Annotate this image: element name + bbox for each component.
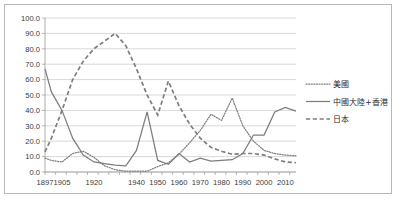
x-axis-label: 1990	[234, 178, 251, 187]
y-axis-label: 0.0	[29, 168, 40, 177]
y-axis-label: 80.0	[25, 45, 40, 54]
y-axis-label: 90.0	[25, 29, 40, 38]
y-axis-label: 10.0	[25, 152, 40, 161]
x-axis-label: 1950	[149, 178, 166, 187]
x-axis-label: 1920	[85, 178, 102, 187]
series-line-jp	[45, 33, 296, 162]
x-axis-label: 1960	[171, 178, 188, 187]
x-axis-label: 1897	[37, 178, 54, 187]
x-axis-label: 1980	[213, 178, 230, 187]
y-axis-label: 50.0	[25, 91, 40, 100]
chart-canvas: 0.010.020.030.040.050.060.070.080.090.01…	[0, 0, 402, 215]
y-axis-label: 70.0	[25, 60, 40, 69]
y-axis-label: 20.0	[25, 137, 40, 146]
legend-label: 日本	[333, 114, 349, 124]
x-axis-label: 1905	[54, 178, 71, 187]
y-axis-label: 100.0	[21, 14, 40, 23]
legend-label: 美國	[333, 79, 349, 89]
legend-label: 中國大陸+香港	[333, 97, 388, 107]
y-axis-label: 60.0	[25, 75, 40, 84]
line-chart: 0.010.020.030.040.050.060.070.080.090.01…	[0, 0, 402, 215]
x-axis-label: 1970	[192, 178, 209, 187]
x-axis-label: 1940	[128, 178, 145, 187]
y-axis-label: 30.0	[25, 122, 40, 131]
x-axis-label: 2010	[277, 178, 294, 187]
y-axis-label: 40.0	[25, 106, 40, 115]
x-axis-label: 2000	[256, 178, 273, 187]
